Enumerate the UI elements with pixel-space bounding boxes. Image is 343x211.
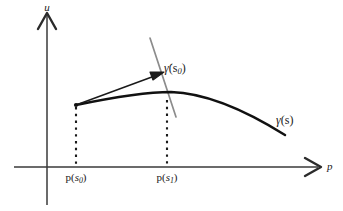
tangent-vector-label: γ̇(s0) xyxy=(164,62,186,76)
figure-container: u p γ̇(s0) γ(s) p(s0) p(s1) xyxy=(0,0,343,211)
p-axis-label: p xyxy=(327,161,333,172)
base-point-marker xyxy=(74,103,78,107)
tick-label-p-s0: p(s0) xyxy=(65,172,86,185)
gamma-curve-label-arg: (s) xyxy=(281,113,294,127)
tick-label-p-s0-prefix: p( xyxy=(65,171,74,183)
tick-label-p-s1: p(s1) xyxy=(156,172,177,185)
gamma-curve-label: γ(s) xyxy=(276,114,293,126)
u-axis-label: u xyxy=(44,2,50,13)
tick-label-p-s1-close: ) xyxy=(174,171,178,183)
tangent-vector-shaft xyxy=(76,74,160,105)
tangent-vector-label-close: ) xyxy=(182,61,186,75)
tick-label-p-s0-close: ) xyxy=(83,171,87,183)
gamma-curve xyxy=(76,92,285,135)
tick-label-p-s1-prefix: p( xyxy=(156,171,165,183)
